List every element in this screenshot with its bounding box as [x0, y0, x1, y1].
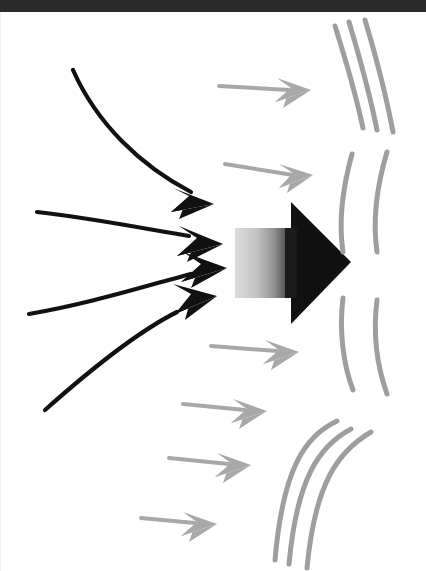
gray-flow-arrows-group	[141, 78, 313, 542]
arc-cluster-mid-upper	[341, 152, 387, 252]
black-arrow-4	[45, 284, 217, 410]
convergence-diagram-svg	[1, 12, 426, 571]
barrier-arc-tr-1	[335, 26, 363, 128]
black-arrow-1	[73, 70, 214, 219]
gray-arrow-2	[225, 164, 313, 193]
gray-arrow-4	[183, 399, 267, 429]
converging-black-arrows-group	[29, 70, 227, 410]
barrier-arc-mu-1	[341, 154, 352, 252]
barrier-arc-br-1	[275, 421, 337, 560]
barrier-arc-br-3	[307, 432, 371, 568]
header-bar	[0, 0, 426, 12]
main-gradient-arrow	[235, 202, 351, 324]
gray-arrow-3	[211, 340, 299, 370]
figure-container	[0, 12, 426, 571]
barrier-arc-mu-2	[375, 152, 387, 252]
gray-arrow-1	[219, 78, 311, 108]
arc-cluster-mid-lower	[341, 298, 387, 394]
gray-arrow-5	[169, 453, 251, 483]
black-arrow-2	[37, 212, 223, 262]
barrier-arc-ml-1	[341, 298, 353, 390]
barrier-arc-ml-2	[375, 300, 387, 394]
arc-cluster-br	[275, 421, 371, 568]
gray-arrow-6	[141, 512, 217, 542]
barrier-arc-tr-3	[365, 20, 393, 132]
arc-cluster-top-right	[335, 20, 393, 132]
diagram-canvas	[0, 0, 426, 571]
